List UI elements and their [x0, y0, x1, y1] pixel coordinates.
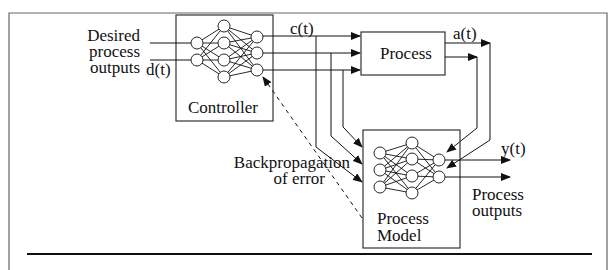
y-signal-label: y(t)	[501, 141, 526, 157]
a-signal-label: a(t)	[453, 26, 477, 42]
backprop-arrow	[263, 77, 362, 218]
process-label: Process	[380, 46, 432, 62]
process-outputs-label-2: outputs	[472, 203, 522, 219]
d-signal-label: d(t)	[146, 62, 171, 78]
desired-label-3: outputs	[60, 60, 140, 76]
controller-network-icon	[191, 20, 263, 83]
process-model-label-1: Process	[377, 211, 429, 227]
control-signal-arrows	[263, 36, 360, 70]
backprop-label-2: of error	[150, 171, 325, 187]
process-model-label-2: Model	[377, 228, 421, 244]
c-signal-label: c(t)	[290, 21, 314, 37]
process-output-arrows	[445, 43, 490, 168]
controller-label: Controller	[188, 100, 258, 116]
process-model-network-icon	[374, 137, 445, 199]
